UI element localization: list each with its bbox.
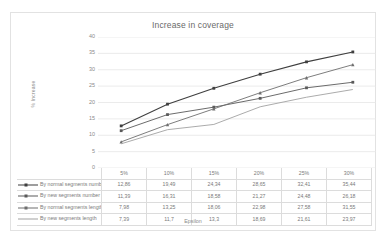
table-cell: 11,39 bbox=[102, 191, 147, 203]
data-point-marker bbox=[259, 73, 262, 76]
y-tick-label: 5 bbox=[73, 149, 95, 154]
y-axis-ticks: 4035302520151050 bbox=[73, 37, 95, 168]
legend-entry[interactable]: By normal segments number bbox=[17, 179, 102, 191]
table-cell: 19,49 bbox=[147, 179, 192, 191]
legend-entry[interactable]: By new segments number bbox=[17, 191, 102, 203]
data-point-marker bbox=[212, 87, 215, 90]
table-cell: 22,98 bbox=[237, 202, 282, 214]
table-cell: 24,48 bbox=[282, 191, 327, 203]
data-point-marker bbox=[120, 129, 123, 132]
legend-entry[interactable]: By normal segments length bbox=[17, 202, 102, 214]
table-cell: 16,31 bbox=[147, 191, 192, 203]
chart-title: Increase in coverage bbox=[11, 20, 375, 30]
table-corner-cell bbox=[17, 168, 102, 179]
y-tick-label: 35 bbox=[73, 51, 95, 56]
table-cell: 26,18 bbox=[327, 191, 372, 203]
table-cell: 7,98 bbox=[102, 202, 147, 214]
table-column-header: 15% bbox=[192, 168, 237, 179]
data-point-marker bbox=[120, 124, 123, 127]
table-row: By new segments number11,3916,3118,5821,… bbox=[17, 191, 372, 203]
legend-label: By normal segments number bbox=[40, 181, 102, 187]
x-axis-title: Epsilon bbox=[11, 218, 375, 224]
legend-marker-icon bbox=[18, 205, 38, 211]
y-tick-label: 30 bbox=[73, 67, 95, 72]
table-cell: 32,41 bbox=[282, 179, 327, 191]
legend-marker-icon bbox=[18, 193, 38, 199]
table-cell: 35,44 bbox=[327, 179, 372, 191]
table-cell: 28,65 bbox=[237, 179, 282, 191]
table-header-row: 5%10%15%20%25%30% bbox=[17, 168, 372, 179]
data-point-marker bbox=[351, 81, 354, 84]
data-point-marker bbox=[166, 113, 169, 116]
table-column-header: 20% bbox=[237, 168, 282, 179]
table-cell: 31,55 bbox=[327, 202, 372, 214]
table-column-header: 10% bbox=[147, 168, 192, 179]
data-point-marker bbox=[305, 60, 308, 63]
data-table: 5%10%15%20%25%30%By normal segments numb… bbox=[17, 168, 372, 226]
table-cell: 27,58 bbox=[282, 202, 327, 214]
series-lines bbox=[119, 51, 354, 144]
table-row: By normal segments number12,8619,4924,34… bbox=[17, 179, 372, 191]
table-cell: 18,58 bbox=[192, 191, 237, 203]
table-cell: 12,86 bbox=[102, 179, 147, 191]
y-tick-label: 40 bbox=[73, 34, 95, 39]
y-tick-label: 10 bbox=[73, 133, 95, 138]
series-line bbox=[121, 82, 353, 130]
series-line bbox=[121, 52, 353, 126]
table-cell: 18,06 bbox=[192, 202, 237, 214]
table-column-header: 25% bbox=[282, 168, 327, 179]
series-line bbox=[121, 90, 353, 144]
table-column-header: 5% bbox=[102, 168, 147, 179]
table-cell: 13,25 bbox=[147, 202, 192, 214]
plot-svg bbox=[98, 37, 376, 168]
data-point-marker bbox=[305, 86, 308, 89]
legend-label: By normal segments length bbox=[40, 204, 102, 210]
table-column-header: 30% bbox=[327, 168, 372, 179]
y-tick-label: 25 bbox=[73, 83, 95, 88]
data-point-marker bbox=[166, 103, 169, 106]
y-tick-label: 20 bbox=[73, 100, 95, 105]
data-point-marker bbox=[351, 51, 354, 54]
table-row: By normal segments length7,9813,2518,062… bbox=[17, 202, 372, 214]
y-tick-label: 15 bbox=[73, 116, 95, 121]
plot-area bbox=[98, 37, 376, 168]
y-axis-title: % Increase bbox=[30, 64, 36, 124]
series-line bbox=[121, 65, 353, 142]
table-cell: 24,34 bbox=[192, 179, 237, 191]
legend-marker-icon bbox=[18, 182, 38, 188]
legend-label: By new segments number bbox=[40, 193, 100, 199]
chart-container: Increase in coverage % Increase 40353025… bbox=[10, 12, 376, 231]
data-point-marker bbox=[259, 97, 262, 100]
table-cell: 21,27 bbox=[237, 191, 282, 203]
